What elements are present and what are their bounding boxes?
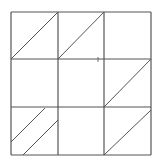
diagonal-r1c1 [11,12,58,59]
diagonal-r2c3 [104,59,151,107]
diagonal-r3c1-a [11,108,45,142]
diagonal-r3c3 [104,110,151,155]
diagonal-lines [11,12,151,155]
grid-diagram [0,0,158,160]
grid-lines [11,12,151,155]
diagonal-r1c2 [58,12,104,59]
